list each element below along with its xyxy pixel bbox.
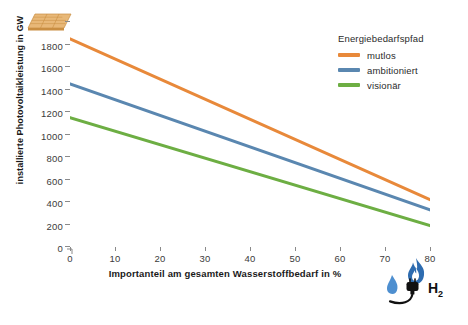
y-axis-tick: 800 [47,151,70,163]
y-axis-tick: 1000 [41,129,70,141]
y-axis-tick: 1400 [41,84,70,96]
legend-label: ambitioniert [367,65,418,76]
x-axis-tick: 40 [235,247,265,264]
y-axis-tick: 600 [47,174,70,186]
y-axis-tick-label: 600 [47,176,70,188]
x-axis-tick-mark [250,247,251,251]
legend-item[interactable]: mutlos [338,49,468,61]
legend-item[interactable]: visionär [338,79,468,91]
legend-title: Energiebedarfspfad [338,33,468,44]
x-axis-tick-label: 60 [325,253,355,264]
x-axis-tick-mark [385,247,386,251]
legend-swatch [338,53,360,57]
y-axis-tick [63,16,70,28]
x-axis-title: Importanteil am gesamten Wasserstoffbeda… [70,268,380,279]
x-axis-tick: 10 [100,247,130,264]
x-axis-tick-mark [160,247,161,251]
x-axis-tick-mark [295,247,296,251]
y-axis-tick-label: 1400 [41,86,70,98]
x-axis-tick-mark [205,247,206,251]
legend-item[interactable]: ambitioniert [338,64,468,76]
y-axis-tick-label: 1600 [41,63,70,75]
y-axis-tick: 1800 [41,39,70,51]
x-axis-tick-label: 50 [280,253,310,264]
y-axis: installierte Photovoltaikleistung in GW … [0,0,70,270]
y-axis-tick-label: 400 [47,198,70,210]
y-axis-tick: 200 [47,219,70,231]
x-axis-tick: 30 [190,247,220,264]
series-line-ambitioniert [70,84,430,210]
x-axis-tick-label: 10 [100,253,130,264]
x-axis-tick-label: 40 [235,253,265,264]
y-axis-title: installierte Photovoltaikleistung in GW [15,0,25,200]
y-axis-tick: 1600 [41,61,70,73]
y-axis-tick: 400 [47,196,70,208]
legend-label: mutlos [367,50,396,61]
x-axis-tick: 60 [325,247,355,264]
hydrogen-icon: H 2 [376,256,452,312]
x-axis-tick-mark [115,247,116,251]
x-axis-tick: 50 [280,247,310,264]
x-axis-tick-label: 20 [145,253,175,264]
y-axis-tick-label: 200 [47,221,70,233]
hydrogen-subscript: 2 [438,289,443,299]
series-line-vision-r [70,118,430,226]
legend-swatch [338,68,360,72]
y-axis-tick-label: 1200 [41,108,70,120]
chart-container: installierte Photovoltaikleistung in GW … [0,0,468,325]
x-axis-tick-mark [340,247,341,251]
x-axis-tick: 20 [145,247,175,264]
y-axis-tick: 1200 [41,106,70,118]
y-axis-tick-label: 1000 [41,131,70,143]
x-axis-tick-mark [430,247,431,251]
y-axis-tick-label: 1800 [41,41,70,53]
y-axis-tick-label: 800 [47,153,70,165]
legend-label: visionär [367,80,401,91]
hydrogen-label: H [428,280,438,296]
legend: Energiebedarfspfad mutlosambitioniertvis… [338,33,468,94]
legend-swatch [338,83,360,87]
x-axis-tick-label: 30 [190,253,220,264]
